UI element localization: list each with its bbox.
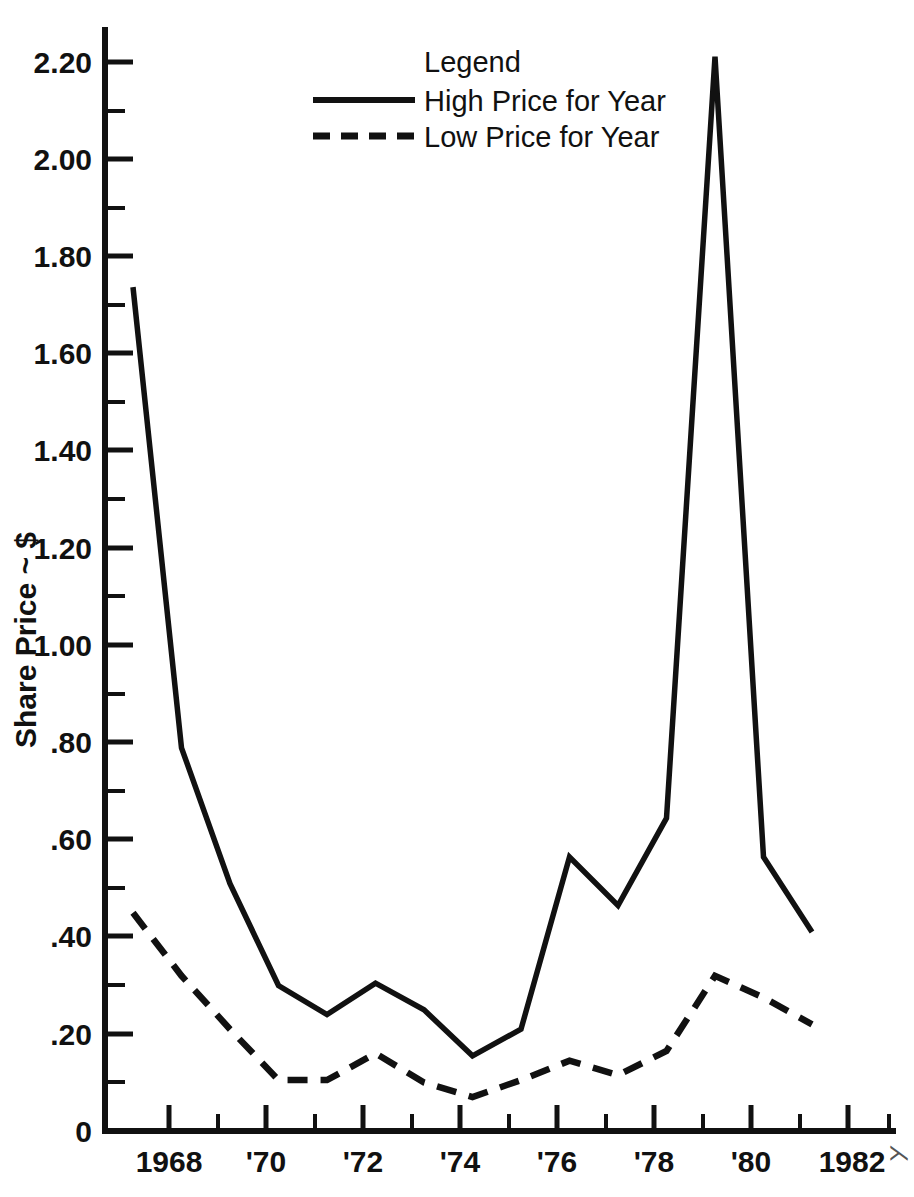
y-axis-title: Share Price ~ $	[9, 532, 42, 748]
y-tick-label-0-60: .60	[50, 823, 92, 856]
y-tick-label-0-20: .20	[50, 1018, 92, 1051]
x-tick-label-1970: '70	[246, 1145, 287, 1178]
y-tick-label-1-40: 1.40	[34, 434, 92, 467]
y-tick-label-1-00: 1.00	[34, 629, 92, 662]
scan-artifact-mark: ⋋	[888, 1140, 910, 1165]
y-tick-label-0: 0	[75, 1115, 92, 1148]
y-tick-label-2-20: 2.20	[34, 46, 92, 79]
y-tick-label-1-60: 1.60	[34, 337, 92, 370]
legend: Legend High Price for Year Low Price for…	[313, 46, 666, 153]
legend-label-high-price: High Price for Year	[424, 85, 666, 117]
y-tick-label-0-80: .80	[50, 726, 92, 759]
y-tick-label-1-80: 1.80	[34, 240, 92, 273]
x-tick-label-1972: '72	[343, 1145, 384, 1178]
x-tick-label-1980: '80	[731, 1145, 772, 1178]
x-tick-label-1976: '76	[537, 1145, 578, 1178]
y-axis-tick-labels: 2.20 2.00 1.80 1.60 1.40 1.20 1.00 .80 .…	[34, 46, 92, 1148]
x-tick-label-1978: '78	[634, 1145, 675, 1178]
chart-container: 2.20 2.00 1.80 1.60 1.40 1.20 1.00 .80 .…	[0, 0, 914, 1197]
series-line-high-price	[133, 57, 812, 1056]
y-tick-label-1-20: 1.20	[34, 532, 92, 565]
series-group	[133, 57, 812, 1097]
y-tick-label-0-40: .40	[50, 920, 92, 953]
y-tick-label-2-00: 2.00	[34, 143, 92, 176]
share-price-line-chart: 2.20 2.00 1.80 1.60 1.40 1.20 1.00 .80 .…	[0, 0, 914, 1197]
legend-label-low-price: Low Price for Year	[424, 121, 660, 153]
legend-title: Legend	[424, 46, 521, 78]
axes-group	[105, 30, 893, 1131]
x-tick-label-1982: 1982	[819, 1145, 886, 1178]
x-tick-label-1968: 1968	[136, 1145, 203, 1178]
x-axis-tick-labels: 1968 '70 '72 '74 '76 '78 '80 1982	[136, 1145, 886, 1178]
x-tick-label-1974: '74	[440, 1145, 481, 1178]
series-line-low-price	[133, 913, 812, 1097]
